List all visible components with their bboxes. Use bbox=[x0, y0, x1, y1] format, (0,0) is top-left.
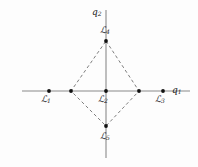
point-dot-L2 bbox=[104, 89, 108, 93]
point-label-L1: ℒ1 bbox=[41, 95, 51, 104]
figure-canvas: ℒ1 ℒ2 ℒ3 ℒ4 ℒ5 q1 q2 bbox=[0, 0, 198, 167]
point-dot-L3 bbox=[161, 89, 165, 93]
q1-axis-label-subscript: 1 bbox=[178, 88, 182, 95]
point-subscript-L1: 1 bbox=[47, 97, 51, 104]
q2-axis-label: q2 bbox=[92, 8, 102, 17]
point-subscript-L3: 3 bbox=[161, 97, 165, 104]
q2-axis-label-subscript: 2 bbox=[98, 10, 102, 17]
dashed-diamond bbox=[71, 41, 139, 126]
point-label-L4: ℒ4 bbox=[100, 26, 110, 35]
figure-graphics bbox=[0, 0, 198, 167]
q1-axis-label: q1 bbox=[172, 86, 182, 95]
point-dot-L4 bbox=[104, 39, 108, 43]
point-dot-L1 bbox=[47, 89, 51, 93]
diamond-right-vertex-dot bbox=[137, 89, 141, 93]
point-dot-L5 bbox=[104, 124, 108, 128]
point-subscript-L2: 2 bbox=[104, 97, 108, 104]
diamond-left-vertex-dot bbox=[69, 89, 73, 93]
point-subscript-L4: 4 bbox=[106, 28, 110, 35]
point-label-L5: ℒ5 bbox=[100, 132, 110, 141]
point-subscript-L5: 5 bbox=[106, 134, 110, 141]
point-label-L2: ℒ2 bbox=[98, 95, 108, 104]
point-label-L3: ℒ3 bbox=[155, 95, 165, 104]
